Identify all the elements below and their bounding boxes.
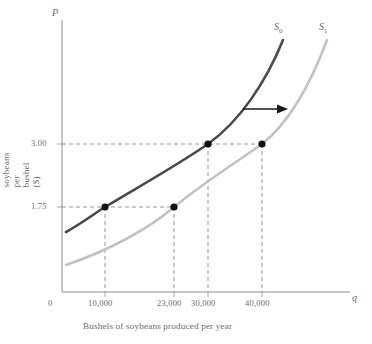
y-tick-label-175: 1.75 xyxy=(31,202,47,211)
y-tick-label-300: 3.00 xyxy=(31,139,47,148)
y-axis-title: Price of soybeans per bushel ($) xyxy=(0,153,41,188)
y-axis-title-container: Price of soybeans per bushel ($) xyxy=(8,80,24,260)
chart-canvas xyxy=(0,0,372,344)
x-axis-variable-label: q xyxy=(352,293,357,303)
shift-arrow-icon xyxy=(243,105,288,114)
x-tick-label-30000: 30,000 xyxy=(191,299,216,308)
curve-label-s0: S0 xyxy=(274,22,283,35)
x-axis-title: Bushels of soybeans produced per year xyxy=(83,322,232,331)
datapoint-30000-300 xyxy=(204,140,211,147)
curve-label-s0-sub: 0 xyxy=(279,27,283,35)
curve-label-s1-sub: 1 xyxy=(324,27,328,35)
datapoint-40000-300 xyxy=(258,140,265,147)
x-tick-label-origin: 0 xyxy=(48,299,52,308)
curve-label-s1: S1 xyxy=(319,22,328,35)
supply-shift-chart: P q 3.00 1.75 0 10,000 23,000 30,000 40,… xyxy=(0,0,372,344)
x-tick-label-40000: 40,000 xyxy=(245,299,270,308)
datapoint-10000-175 xyxy=(101,203,108,210)
x-tick-label-10000: 10,000 xyxy=(88,299,113,308)
datapoint-23000-175 xyxy=(170,203,177,210)
y-axis-variable-label: P xyxy=(52,8,58,18)
supply-curve-s0 xyxy=(66,40,283,232)
x-tick-label-23000: 23,000 xyxy=(157,299,182,308)
